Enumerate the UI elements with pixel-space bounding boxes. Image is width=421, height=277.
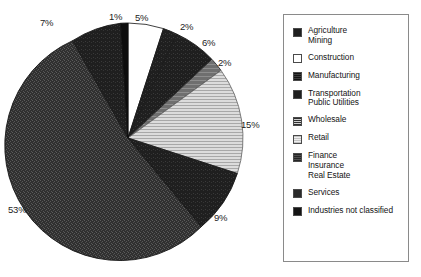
- legend-swatch-icon: [293, 207, 302, 216]
- pie-label-retail: 15%: [241, 120, 259, 130]
- legend-item-retail[interactable]: Retail: [293, 133, 408, 144]
- pie-chart-figure: 7% 1% 5% 2% 6% 2% 15% 9% 53% Agriculture…: [0, 0, 421, 277]
- legend-swatch-icon: [293, 153, 302, 162]
- pie-label-services: 53%: [8, 205, 26, 215]
- pie-label-finance: 7%: [40, 18, 53, 28]
- pie-label-wholesale: 9%: [214, 213, 227, 223]
- pie-label-construction: 5%: [135, 13, 148, 23]
- legend-item-label: Services: [308, 188, 339, 198]
- legend-item-wholesale[interactable]: Wholesale: [293, 115, 408, 126]
- legend-swatch-icon: [293, 90, 302, 99]
- pie-label-transportation: 2%: [218, 58, 231, 68]
- legend-swatch-icon: [293, 72, 302, 81]
- legend-item-label: Finance Insurance Real Estate: [308, 151, 350, 180]
- legend-item-label: Agriculture Mining: [308, 26, 347, 45]
- legend-item-manufacturing[interactable]: Manufacturing: [293, 71, 408, 82]
- legend-swatch-icon: [293, 28, 302, 37]
- legend-item-label: Wholesale: [308, 115, 346, 125]
- legend-item-label: Manufacturing: [308, 71, 360, 81]
- pie-chart-plot-area: 7% 1% 5% 2% 6% 2% 15% 9% 53%: [0, 0, 272, 277]
- pie-label-agriculture-mining: 2%: [180, 22, 193, 32]
- legend-swatch-icon: [293, 135, 302, 144]
- legend-item-label: Construction: [308, 53, 354, 63]
- legend-item-label: Transportation Public Utilities: [308, 89, 361, 108]
- chart-legend: Agriculture Mining Construction Manufact…: [283, 14, 409, 262]
- legend-item-label: Retail: [308, 133, 329, 143]
- legend-item-agriculture-mining[interactable]: Agriculture Mining: [293, 26, 408, 45]
- legend-item-construction[interactable]: Construction: [293, 53, 408, 64]
- legend-swatch-icon: [293, 189, 302, 198]
- legend-swatch-icon: [293, 54, 302, 63]
- legend-swatch-icon: [293, 117, 302, 126]
- pie-chart-svg: [0, 0, 272, 277]
- pie-label-manufacturing: 6%: [202, 38, 215, 48]
- legend-item-services[interactable]: Services: [293, 188, 408, 199]
- legend-item-label: Industries not classified: [308, 206, 393, 216]
- pie-label-industries-not-classified: 1%: [109, 12, 122, 22]
- pie-slices: [5, 23, 243, 261]
- legend-item-transportation-public-utilities[interactable]: Transportation Public Utilities: [293, 89, 408, 108]
- legend-item-finance-insurance-real-estate[interactable]: Finance Insurance Real Estate: [293, 151, 408, 180]
- legend-item-industries-not-classified[interactable]: Industries not classified: [293, 206, 408, 217]
